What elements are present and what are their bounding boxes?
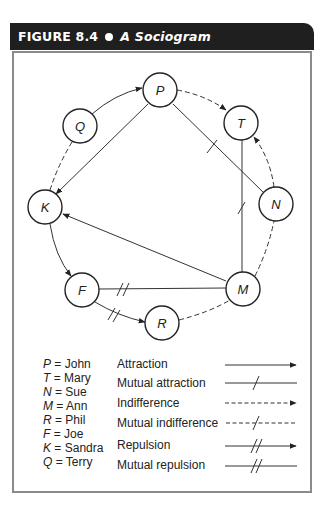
svg-text:M: M (238, 282, 249, 297)
legend-label-repulsion: Repulsion (117, 438, 170, 452)
legend-key-p: P = John (43, 357, 91, 371)
node-f: F (65, 273, 99, 307)
edge-q-k-mutual-indifference (50, 142, 72, 190)
edge-r-m-mutual-indifference (179, 300, 230, 320)
node-p: P (143, 73, 177, 107)
legend-key-n: N = Sue (43, 385, 87, 399)
legend-label-mutual-indifference: Mutual indifference (117, 416, 218, 430)
tick (123, 283, 129, 296)
tick (117, 283, 123, 296)
node-m: M (226, 272, 260, 306)
legend-key-r: R = Phil (43, 413, 85, 427)
edge-m-k-attraction (63, 214, 226, 281)
edge-f-m-mutual-repulsion (99, 288, 226, 289)
legend-key-f: F = Joe (43, 427, 83, 441)
legend-label-mutual-attraction: Mutual attraction (117, 376, 206, 390)
legend-key-m: M = Ann (43, 399, 87, 413)
legend-label-indifference: Indifference (117, 396, 180, 410)
legend-key-q: Q = Terry (43, 455, 92, 469)
svg-text:P: P (156, 83, 165, 98)
legend-label-mutual-repulsion: Mutual repulsion (117, 458, 205, 472)
svg-text:Q: Q (75, 119, 85, 134)
node-q: Q (63, 109, 97, 143)
edge-p-t-indifference (177, 90, 226, 110)
svg-text:R: R (157, 316, 166, 331)
svg-text:F: F (78, 283, 87, 298)
node-k: K (28, 190, 62, 224)
edge-f-r-repulsion (95, 302, 145, 322)
svg-text:K: K (41, 200, 51, 215)
legend-key-t: T = Mary (43, 371, 91, 385)
edge-n-t-indifference (254, 137, 274, 187)
edge-k-f-attraction (50, 224, 71, 276)
legend-line-samples (225, 365, 297, 473)
svg-text:N: N (271, 197, 281, 212)
node-r: R (145, 306, 179, 340)
edge-m-n-mutual-indifference (255, 221, 274, 276)
legend-key-k: K = Sandra (43, 441, 103, 455)
node-n: N (259, 187, 293, 221)
edge-q-p-attraction (92, 88, 142, 114)
legend-label-attraction: Attraction (117, 357, 168, 371)
svg-text:T: T (237, 116, 246, 131)
node-t: T (224, 106, 258, 140)
